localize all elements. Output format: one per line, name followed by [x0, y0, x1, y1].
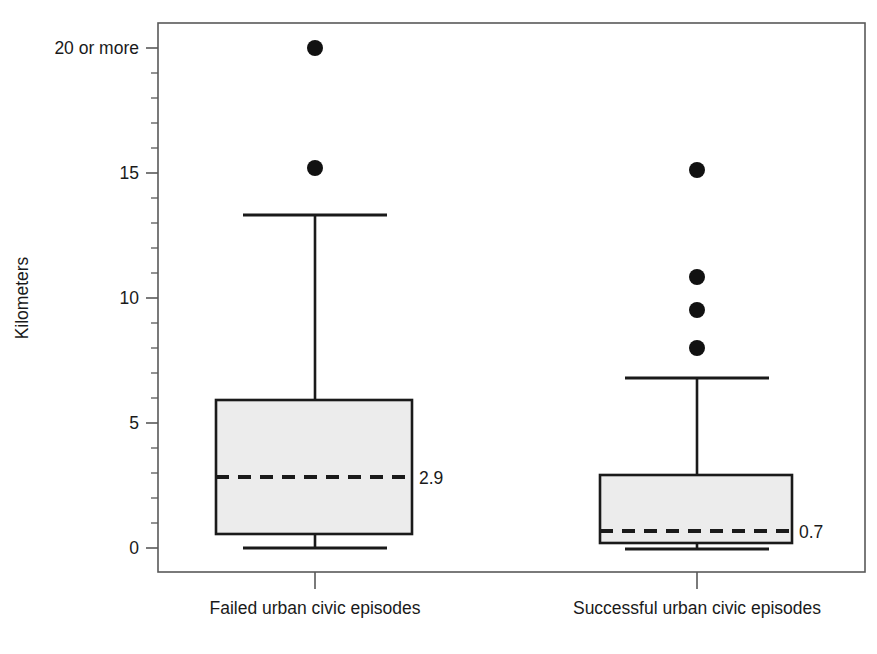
- chart-canvas: 20 or more 15 10 5 0 Kilometers Failed u…: [0, 0, 877, 654]
- outlier-point: [689, 340, 705, 356]
- y-tick-label-5: 5: [129, 413, 139, 433]
- y-tick-label-20: 20 or more: [54, 38, 139, 58]
- box-body-failed: [216, 400, 412, 534]
- outlier-point: [689, 269, 705, 285]
- y-axis-title: Kilometers: [12, 256, 32, 339]
- x-axis-label-failed: Failed urban civic episodes: [209, 598, 420, 618]
- outlier-point: [689, 162, 705, 178]
- box-plot-failed: 2.9: [216, 40, 443, 548]
- boxplot-chart: 20 or more 15 10 5 0 Kilometers Failed u…: [0, 0, 877, 654]
- outlier-point: [307, 40, 323, 56]
- x-axis-label-successful: Successful urban civic episodes: [573, 598, 821, 618]
- box-plot-successful: 0.7: [600, 162, 823, 549]
- median-value-successful: 0.7: [799, 522, 823, 542]
- median-value-failed: 2.9: [419, 468, 443, 488]
- y-tick-label-15: 15: [120, 163, 139, 183]
- y-tick-label-0: 0: [129, 538, 139, 558]
- outlier-point: [307, 160, 323, 176]
- y-tick-label-10: 10: [120, 288, 140, 308]
- outlier-point: [689, 302, 705, 318]
